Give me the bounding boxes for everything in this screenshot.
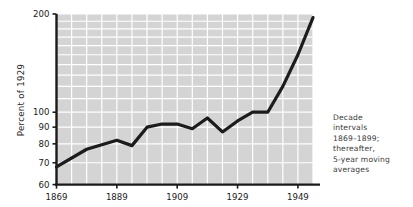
y-axis-title: Percent of 1929	[16, 64, 26, 136]
x-tick-label: 1889	[106, 192, 128, 202]
caption-line-6: averages	[333, 165, 413, 175]
y-axis-tick-labels: 60708090100200	[33, 9, 49, 190]
x-tick-label: 1909	[166, 192, 188, 202]
figure-container: 60708090100200 18691889190919291949 Perc…	[0, 0, 413, 207]
x-tick-label: 1949	[287, 192, 309, 202]
caption-line-5: 5-year moving	[333, 155, 413, 165]
caption-line-1: Decade	[333, 113, 413, 123]
x-tick-label: 1869	[46, 192, 68, 202]
line-chart: 60708090100200 18691889190919291949 Perc…	[0, 0, 413, 207]
caption-line-2: intervals	[333, 123, 413, 133]
caption-line-3: 1869–1899;	[333, 134, 413, 144]
caption-line-4: thereafter,	[333, 144, 413, 154]
y-tick-label: 60	[39, 180, 50, 190]
x-tick-label: 1929	[227, 192, 249, 202]
y-tick-label: 80	[39, 139, 50, 149]
y-tick-label: 200	[33, 9, 49, 19]
y-tick-label: 70	[39, 158, 50, 168]
y-tick-label: 90	[39, 122, 50, 132]
x-axis-tick-labels: 18691889190919291949	[46, 192, 309, 202]
y-tick-label: 100	[33, 107, 49, 117]
chart-caption: Decade intervals 1869–1899; thereafter, …	[333, 113, 413, 175]
